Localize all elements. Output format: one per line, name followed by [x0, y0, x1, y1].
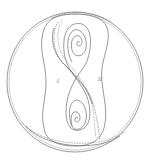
region-label-left: I: [57, 78, 59, 84]
separatrix-lower-loop: [66, 78, 90, 130]
lower-spiral: [69, 100, 86, 129]
bottom-band: [22, 122, 124, 143]
separatrix-upper-loop: [64, 24, 91, 78]
region-label-right: II: [98, 76, 102, 82]
upper-spiral: [68, 30, 87, 62]
top-band: [52, 12, 112, 22]
boundary-circle: [7, 12, 143, 152]
crossing-trajectory-1: [54, 22, 100, 140]
phase-portrait-diagram: [0, 0, 150, 162]
